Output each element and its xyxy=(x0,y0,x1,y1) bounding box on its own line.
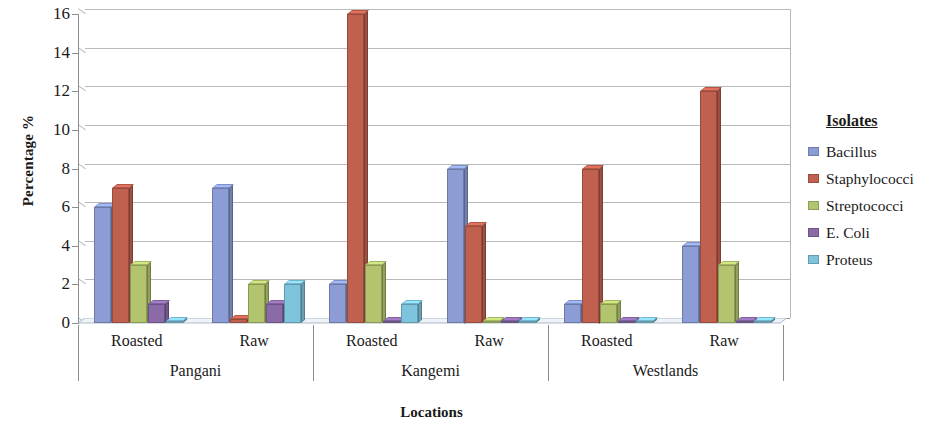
bar-face xyxy=(501,321,518,323)
bar-face xyxy=(582,169,599,324)
bar-side xyxy=(382,262,386,323)
bar xyxy=(682,246,699,323)
bar xyxy=(447,169,464,324)
bar-side xyxy=(599,165,603,323)
category-label: Raw xyxy=(196,332,314,350)
bar xyxy=(112,188,129,323)
bar xyxy=(248,284,265,323)
bar-face xyxy=(600,304,617,323)
bar xyxy=(401,304,418,323)
category-label: Roasted xyxy=(548,332,666,350)
legend-swatch-icon xyxy=(808,255,819,264)
bar-face xyxy=(700,91,717,323)
bar xyxy=(148,304,165,323)
bar-face xyxy=(618,321,635,323)
bar-face xyxy=(564,304,581,323)
legend-item-label: Proteus xyxy=(826,251,873,269)
legend-swatch-icon xyxy=(808,228,819,237)
bar xyxy=(501,321,518,323)
bar-face xyxy=(130,265,147,323)
bar xyxy=(636,321,653,323)
legend-item[interactable]: Proteus xyxy=(808,246,950,273)
bar-face xyxy=(519,321,536,323)
bar xyxy=(230,319,247,323)
bar xyxy=(212,188,229,323)
bar-face xyxy=(248,284,265,323)
bar-face xyxy=(736,321,753,323)
legend-swatch-icon xyxy=(808,147,819,156)
bar xyxy=(483,321,500,323)
bar xyxy=(284,284,301,323)
bar-face xyxy=(148,304,165,323)
group-label: Pangani xyxy=(78,362,313,380)
bar-face xyxy=(284,284,301,323)
bar-face xyxy=(166,321,183,323)
bar-side xyxy=(301,281,305,323)
bar-face xyxy=(754,321,771,323)
bar xyxy=(564,304,581,323)
legend-item-label: E. Coli xyxy=(826,224,870,242)
bar xyxy=(465,226,482,323)
bar-side xyxy=(735,262,739,323)
bar-face xyxy=(383,321,400,323)
category-axis-edge xyxy=(783,325,784,381)
bar-face xyxy=(230,319,247,323)
bar-face xyxy=(266,304,283,323)
bar xyxy=(166,321,183,323)
bar xyxy=(700,91,717,323)
bar xyxy=(736,321,753,323)
legend-swatch-icon xyxy=(808,201,819,210)
legend-title: Isolates xyxy=(826,112,950,130)
x-axis-title: Locations xyxy=(78,404,785,421)
bar-face xyxy=(465,226,482,323)
bar xyxy=(347,14,364,323)
category-label: Roasted xyxy=(313,332,431,350)
legend-item-label: Bacillus xyxy=(826,143,877,161)
group-label: Westlands xyxy=(548,362,783,380)
bar-chart: Percentage % 1614121086420 RoastedRawRoa… xyxy=(0,0,950,433)
bar-face xyxy=(682,246,699,323)
bar xyxy=(582,169,599,324)
bar-side xyxy=(418,301,422,323)
legend-item-label: Streptococci xyxy=(826,197,903,215)
bar-face xyxy=(447,169,464,324)
legend: Isolates BacillusStaphylococciStreptococ… xyxy=(826,112,950,273)
bar-face xyxy=(636,321,653,323)
bar xyxy=(618,321,635,323)
legend-items: BacillusStaphylococciStreptococciE. Coli… xyxy=(826,138,950,273)
legend-swatch-icon xyxy=(808,174,819,183)
bar-side xyxy=(482,223,486,323)
group-label: Kangemi xyxy=(313,362,548,380)
legend-item[interactable]: Bacillus xyxy=(808,138,950,165)
bar-face xyxy=(365,265,382,323)
bar xyxy=(718,265,735,323)
legend-item[interactable]: Streptococci xyxy=(808,192,950,219)
bar-face xyxy=(401,304,418,323)
bar-face xyxy=(94,207,111,323)
category-label: Raw xyxy=(431,332,549,350)
bar xyxy=(600,304,617,323)
bar-face xyxy=(212,188,229,323)
bar xyxy=(130,265,147,323)
legend-item-label: Staphylococci xyxy=(826,170,914,188)
category-label: Raw xyxy=(666,332,784,350)
bar xyxy=(365,265,382,323)
legend-item[interactable]: E. Coli xyxy=(808,219,950,246)
bar-face xyxy=(347,14,364,323)
category-label: Roasted xyxy=(78,332,196,350)
bar-face xyxy=(718,265,735,323)
legend-item[interactable]: Staphylococci xyxy=(808,165,950,192)
bar-side xyxy=(229,185,233,323)
bar xyxy=(266,304,283,323)
bar xyxy=(519,321,536,323)
bar-face xyxy=(112,188,129,323)
bar xyxy=(754,321,771,323)
bar xyxy=(94,207,111,323)
bar-face xyxy=(483,321,500,323)
bar xyxy=(383,321,400,323)
bar xyxy=(329,284,346,323)
bar-face xyxy=(329,284,346,323)
